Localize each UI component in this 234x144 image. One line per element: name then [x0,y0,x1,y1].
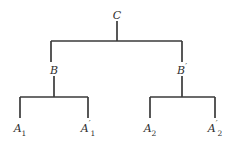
node-subscript: 1 [91,129,96,138]
node-base: A [14,122,22,135]
node-base: B [50,64,58,77]
node-base: C [113,9,121,22]
node-label-leaf-a2p: A′2 [208,119,223,138]
node-base: A [208,122,216,135]
node-label-leaf-a1: A1 [14,119,27,138]
tree-diagram-figure: CBB′A1A′1A2A′2 [0,0,234,144]
node-subscript: 2 [152,129,157,138]
node-label-left: B [50,61,58,77]
node-base: A [81,122,89,135]
node-subscript: 2 [218,129,223,138]
node-prime: ′ [185,61,187,70]
node-base: B [177,64,185,77]
node-prime: ′ [216,118,218,127]
node-label-leaf-a1p: A′1 [81,119,96,138]
node-base: A [144,122,152,135]
node-prime: ′ [89,118,91,127]
node-label-leaf-a2: A2 [144,119,157,138]
node-label-root: C [113,6,121,22]
node-subscript: 1 [22,129,27,138]
node-label-right: B′ [177,61,187,77]
